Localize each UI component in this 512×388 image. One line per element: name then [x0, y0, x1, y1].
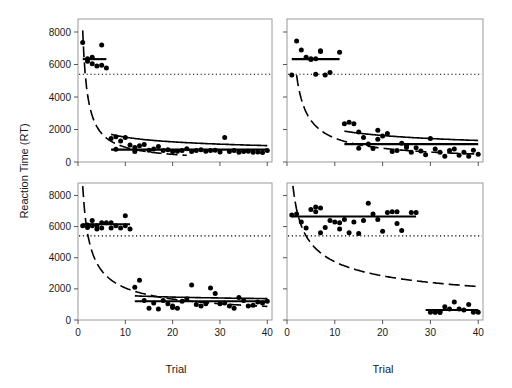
data-point [395, 148, 400, 153]
data-point [203, 149, 208, 154]
y-tick-label: 8000 [49, 27, 72, 38]
data-point [170, 304, 175, 309]
data-point [395, 209, 400, 214]
data-point [318, 205, 323, 210]
data-point [428, 310, 433, 315]
data-point [80, 40, 85, 45]
data-point [246, 304, 251, 309]
data-point [189, 149, 194, 154]
data-point [180, 148, 185, 153]
data-point [299, 47, 304, 52]
data-point [161, 148, 166, 153]
data-point [265, 148, 270, 153]
data-point [337, 50, 342, 55]
data-point [241, 298, 246, 303]
panel-group [78, 19, 483, 320]
data-point [447, 307, 452, 312]
data-point [123, 135, 128, 140]
data-point [342, 121, 347, 126]
data-point [304, 226, 309, 231]
data-point [347, 120, 352, 125]
data-point [361, 135, 366, 140]
data-point [399, 141, 404, 146]
data-point [104, 220, 109, 225]
data-point [184, 146, 189, 151]
data-point [147, 148, 152, 153]
data-point [375, 128, 380, 133]
data-point [222, 300, 227, 305]
data-point [265, 299, 270, 304]
x-tick-label: 10 [329, 327, 341, 338]
data-point [213, 291, 218, 296]
data-point [94, 226, 99, 231]
y-tick-label: 6000 [49, 221, 72, 232]
data-point [351, 121, 356, 126]
data-point [433, 147, 438, 152]
data-point [222, 135, 227, 140]
data-point [457, 307, 462, 312]
data-point [466, 302, 471, 307]
data-point [323, 225, 328, 230]
data-point [175, 306, 180, 311]
data-point [308, 207, 313, 212]
data-point [194, 302, 199, 307]
data-point [137, 278, 142, 283]
data-point [165, 301, 170, 306]
data-point [156, 307, 161, 312]
data-point [414, 210, 419, 215]
data-point [128, 226, 133, 231]
data-point [356, 146, 361, 151]
data-point [123, 223, 128, 228]
data-point [471, 310, 476, 315]
data-point [260, 150, 265, 155]
x-tick-label: 10 [120, 327, 132, 338]
data-point [208, 148, 213, 153]
data-point [452, 147, 457, 152]
data-point [90, 223, 95, 228]
data-point [255, 300, 260, 305]
data-point [213, 148, 218, 153]
data-point [109, 136, 114, 141]
x-tick-label: 30 [425, 327, 437, 338]
data-point [255, 149, 260, 154]
data-point [156, 144, 161, 149]
data-point [236, 295, 241, 300]
data-point [375, 217, 380, 222]
data-point [457, 153, 462, 158]
data-point [289, 73, 294, 78]
data-point [409, 210, 414, 215]
y-axis-title: Reaction Time (RT) [18, 123, 30, 218]
data-point [132, 285, 137, 290]
y-tick-label: 0 [65, 315, 71, 326]
data-point [476, 152, 481, 157]
data-point [113, 147, 118, 152]
data-point [123, 213, 128, 218]
x-axis-title-left: Trial [166, 363, 187, 375]
data-point [356, 129, 361, 134]
data-point [342, 217, 347, 222]
data-point [142, 298, 147, 303]
data-point [175, 149, 180, 154]
data-point [371, 212, 376, 217]
y-tick-label: 6000 [49, 59, 72, 70]
data-point [118, 138, 123, 143]
panel-bottom-right [287, 183, 483, 320]
data-point [347, 230, 352, 235]
data-point [194, 148, 199, 153]
data-point [227, 149, 232, 154]
data-point [99, 226, 104, 231]
data-point [471, 148, 476, 153]
data-point [466, 154, 471, 159]
y-tick-label: 4000 [49, 252, 72, 263]
data-point [104, 66, 109, 71]
data-point [461, 150, 466, 155]
data-point [80, 223, 85, 228]
y-tick-label: 0 [65, 157, 71, 168]
data-point [452, 300, 457, 305]
data-point [380, 134, 385, 139]
data-point [337, 226, 342, 231]
data-point [99, 63, 104, 68]
data-point [232, 306, 237, 311]
x-tick-label: 40 [262, 327, 274, 338]
data-point [433, 309, 438, 314]
